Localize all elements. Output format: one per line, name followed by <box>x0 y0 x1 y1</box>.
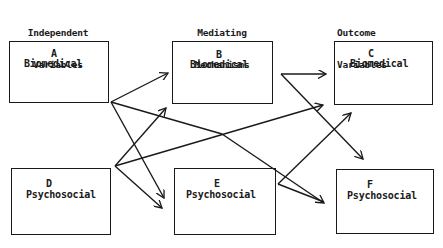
arrow-d-to-b <box>115 108 166 166</box>
arrow-e-to-c <box>278 113 351 184</box>
arrow-a-to-b <box>111 73 168 102</box>
arrows-layer <box>0 0 443 248</box>
arrow-a-to-f <box>111 102 222 134</box>
arrow-a-to-f-cont <box>222 134 324 203</box>
arrow-d-to-e <box>115 166 162 208</box>
arrow-a-to-e <box>111 102 164 198</box>
arrow-b-to-f <box>281 74 363 159</box>
arrow-d-to-c <box>115 105 323 166</box>
